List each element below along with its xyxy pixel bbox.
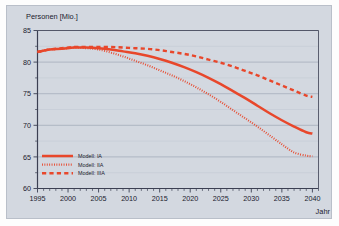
legend-label-2: Modell: IIA <box>78 162 104 168</box>
y-tick-label: 65 <box>23 153 31 162</box>
x-tick-label: 1995 <box>30 194 46 203</box>
x-tick-label: 2005 <box>91 194 107 203</box>
x-axis-title: Jahr <box>316 207 331 216</box>
x-tick-label: 2015 <box>152 194 168 203</box>
x-tick-label: 2025 <box>213 194 229 203</box>
y-tick-label: 60 <box>23 184 31 193</box>
figure-container: 1995200020052010201520202025203020352040… <box>0 0 339 226</box>
y-tick-label: 85 <box>23 26 31 35</box>
y-axis-tick-labels: 606570758085 <box>23 26 31 193</box>
population-projection-chart: 1995200020052010201520202025203020352040… <box>0 0 339 226</box>
y-tick-label: 70 <box>23 121 31 130</box>
x-tick-label: 2035 <box>274 194 290 203</box>
x-tick-label: 2030 <box>243 194 259 203</box>
legend-label-1: Modell: IA <box>78 153 102 159</box>
y-tick-label: 75 <box>23 89 31 98</box>
x-tick-label: 2040 <box>304 194 320 203</box>
x-tick-label: 2010 <box>121 194 137 203</box>
legend-label-3: Modell: IIIA <box>78 170 105 176</box>
x-tick-label: 2000 <box>60 194 76 203</box>
chart-canvas: 1995200020052010201520202025203020352040… <box>0 0 339 226</box>
x-axis-tick-labels: 1995200020052010201520202025203020352040 <box>30 194 321 203</box>
y-tick-label: 80 <box>23 58 31 67</box>
y-axis-title: Personen [Mio.] <box>26 12 78 21</box>
x-tick-label: 2020 <box>182 194 198 203</box>
